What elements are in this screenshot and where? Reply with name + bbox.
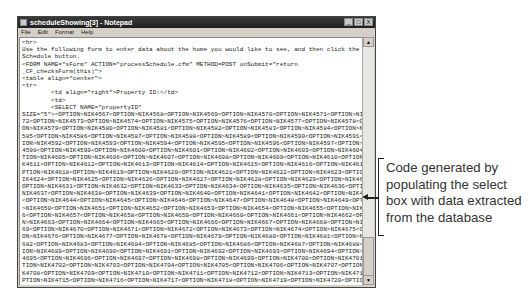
- callout-arrow: [366, 197, 378, 199]
- source-code-text[interactable]: <hr> Use the following form to enter dat…: [20, 38, 363, 284]
- callout-annotation: Code generated by populating the select …: [386, 160, 531, 226]
- menu-format[interactable]: Format: [55, 28, 74, 37]
- menu-edit[interactable]: Edit: [38, 28, 48, 37]
- scroll-thumb[interactable]: [363, 237, 374, 277]
- text-editor[interactable]: <hr> Use the following form to enter dat…: [19, 37, 363, 285]
- notepad-window: scheduleShowing[3] - Notepad _ □ X File …: [17, 16, 376, 288]
- maximize-button[interactable]: □: [354, 18, 363, 26]
- scroll-down-button[interactable]: ▼: [363, 275, 374, 285]
- scroll-up-button[interactable]: ▲: [363, 37, 374, 47]
- minimize-button[interactable]: _: [344, 18, 353, 26]
- menu-help[interactable]: Help: [81, 28, 93, 37]
- callout-bracket: [378, 158, 384, 236]
- window-title: scheduleShowing[3] - Notepad: [30, 17, 132, 28]
- notepad-icon: [20, 19, 27, 26]
- close-button[interactable]: X: [364, 18, 373, 26]
- menu-file[interactable]: File: [21, 28, 31, 37]
- vertical-scrollbar[interactable]: ▲ ▼: [362, 37, 374, 285]
- window-controls: _ □ X: [344, 18, 373, 26]
- title-bar[interactable]: scheduleShowing[3] - Notepad _ □ X: [18, 17, 375, 28]
- menu-bar: File Edit Format Help: [18, 28, 375, 37]
